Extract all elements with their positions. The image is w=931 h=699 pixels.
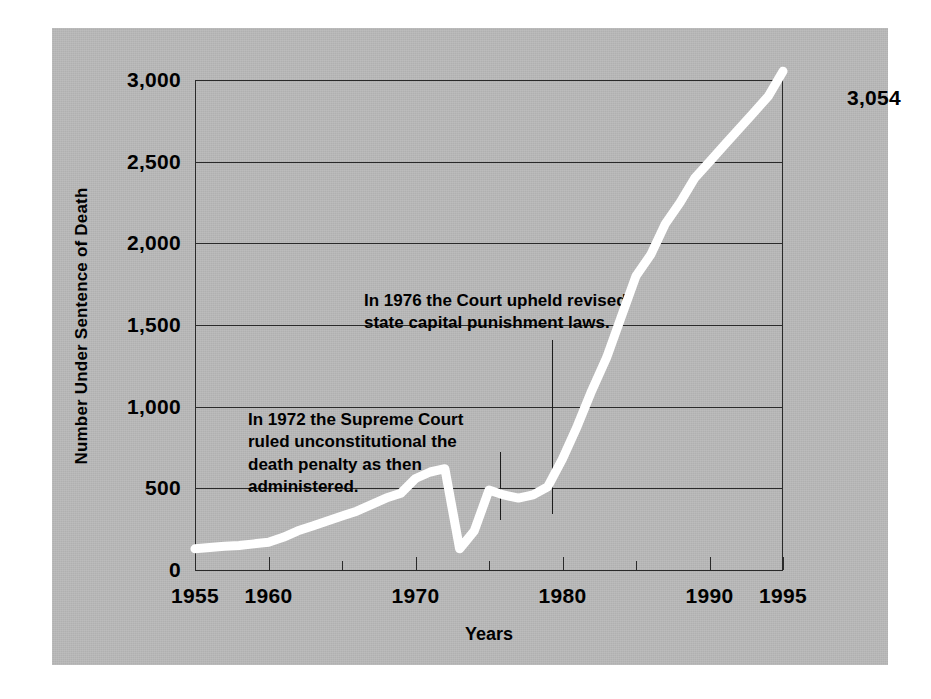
gridline-y-0 [195, 570, 783, 571]
chart-panel: Number Under Sentence of Death 05001,000… [52, 28, 888, 665]
y-tick-label-500: 500 [145, 476, 181, 500]
x-tick-1975 [489, 561, 490, 570]
x-tick-1955 [195, 557, 196, 570]
annotation-1976-text: In 1976 the Court upheld revised state c… [364, 290, 627, 335]
gridline-y-2500 [195, 162, 783, 163]
gridline-y-2000 [195, 243, 783, 244]
y-axis-title-text: Number Under Sentence of Death [72, 187, 92, 464]
x-tick-label-1960: 1960 [245, 584, 293, 608]
x-tick-1995 [783, 557, 784, 570]
x-axis-title: Years [195, 624, 783, 645]
x-tick-1985 [636, 561, 637, 570]
x-tick-label-1955: 1955 [171, 584, 219, 608]
x-tick-1990 [710, 557, 711, 570]
annotation-1972-text: In 1972 the Supreme Court ruled unconsti… [248, 409, 463, 499]
end-value-label: 3,054 [847, 86, 901, 110]
x-tick-label-1995: 1995 [759, 584, 807, 608]
chart-figure: Number Under Sentence of Death 05001,000… [0, 0, 931, 699]
x-tick-label-1970: 1970 [392, 584, 440, 608]
x-tick-label-1990: 1990 [686, 584, 734, 608]
y-tick-label-1500: 1,500 [127, 313, 181, 337]
x-tick-1960 [269, 557, 270, 570]
annotation-leader-1976 [552, 340, 553, 514]
annotation-leader-1972 [500, 452, 501, 520]
gridline-y-3000 [195, 80, 783, 81]
y-tick-label-2000: 2,000 [127, 231, 181, 255]
y-tick-label-3000: 3,000 [127, 68, 181, 92]
y-tick-label-1000: 1,000 [127, 395, 181, 419]
y-tick-label-2500: 2,500 [127, 150, 181, 174]
x-tick-1970 [416, 557, 417, 570]
y-tick-label-0: 0 [169, 558, 181, 582]
y-axis-title: Number Under Sentence of Death [64, 76, 100, 576]
gridline-y-1000 [195, 407, 783, 408]
x-tick-1965 [342, 561, 343, 570]
x-tick-label-1980: 1980 [539, 584, 587, 608]
x-tick-1980 [563, 557, 564, 570]
